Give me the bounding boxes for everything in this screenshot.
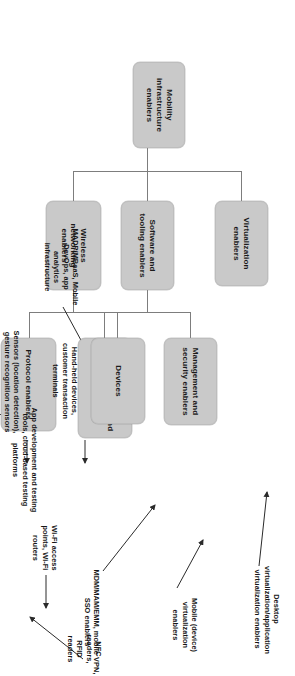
node-virtualization-enablers[interactable]: Virtualization enablers (215, 201, 268, 286)
annotation-nfc-rfid: NFC readers, RFID readers (66, 626, 103, 672)
annotation-desktop-virtualization: Desktop virtualization/application virtu… (253, 566, 281, 652)
node-devices[interactable]: Devices (91, 338, 145, 424)
annotation-hand-held-devices: Hand-held devices, customer transaction … (51, 330, 79, 432)
node-software-and-tooling-enablers[interactable]: Software and tooling enablers (121, 201, 174, 290)
annotation-sensors: Sensors (location detection), gesture re… (2, 330, 21, 434)
annotation-madp-mbaas: MADP/MBaaS, Mobile DevOps, app analytics… (43, 228, 80, 306)
node-management-and-security-enablers[interactable]: Management and security enablers (164, 338, 217, 425)
annotation-wifi-access: Wi-Fi access points, Wi-Fi routers (31, 520, 59, 576)
node-root[interactable]: Mobility infrastructure enablers (133, 62, 185, 148)
annotation-mobile-device-virtualization: Mobile (device) virtualization enablers (171, 589, 199, 661)
